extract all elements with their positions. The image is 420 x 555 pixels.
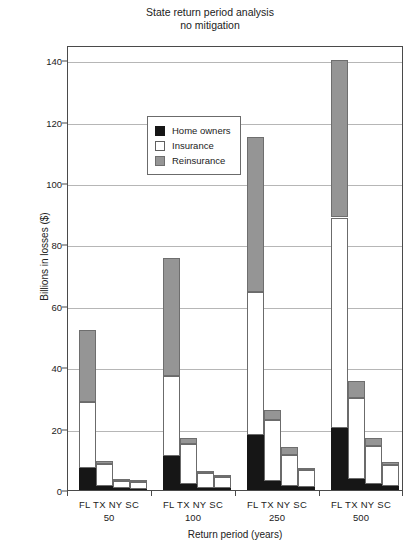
x-group-period: 250: [235, 511, 319, 524]
bar-segment: [113, 479, 130, 481]
bar-segment: [180, 444, 197, 484]
y-tick-label: 100: [24, 179, 62, 190]
y-tick-label: 80: [24, 240, 62, 251]
x-axis-label: Return period (years): [67, 529, 403, 540]
bar-segment: [163, 258, 180, 376]
bar-segment: [197, 471, 214, 473]
y-tick-label: 120: [24, 117, 62, 128]
bar-segment: [247, 292, 264, 436]
bar-group: [320, 47, 404, 490]
bar-segment: [214, 488, 231, 490]
stacked-bar: [130, 482, 147, 490]
legend-label: Insurance: [172, 140, 214, 151]
bar-segment: [79, 468, 96, 490]
bar-segment: [96, 461, 113, 464]
x-tick-mark: [319, 491, 320, 496]
chart-legend: Home ownersInsuranceReinsurance: [147, 116, 241, 175]
legend-swatch-ins: [155, 141, 165, 151]
bar-segment: [214, 475, 231, 477]
bar-segment: [348, 398, 365, 479]
x-tick-mark: [402, 491, 403, 496]
bar-group: [68, 47, 152, 490]
legend-label: Reinsurance: [172, 155, 225, 166]
bar-segment: [365, 446, 382, 485]
x-group-states: FL TX NY SC: [67, 498, 151, 511]
bar-segment: [247, 137, 264, 292]
legend-item: Home owners: [155, 123, 231, 138]
bar-group: [152, 47, 236, 490]
bar-segment: [180, 438, 197, 444]
x-tick-mark: [67, 491, 68, 496]
y-tick-label: 140: [24, 56, 62, 67]
x-group-label: FL TX NY SC50: [67, 498, 151, 524]
stacked-bar: [281, 447, 298, 490]
bar-segment: [298, 468, 315, 470]
y-axis-label: Billions in losses ($): [39, 137, 50, 377]
x-group-states: FL TX NY SC: [235, 498, 319, 511]
bar-segment: [264, 420, 281, 481]
x-group-period: 500: [319, 511, 403, 524]
y-tick-label: 60: [24, 301, 62, 312]
bar-segment: [264, 410, 281, 420]
legend-item: Reinsurance: [155, 153, 231, 168]
stacked-bar: [180, 438, 197, 490]
x-axis: Return period (years) FL TX NY SC50FL TX…: [67, 491, 403, 553]
bar-segment: [281, 486, 298, 490]
y-tick-label: 0: [24, 486, 62, 497]
x-group-period: 50: [67, 511, 151, 524]
stacked-bar: [247, 137, 264, 490]
stacked-bar: [79, 330, 96, 490]
chart-figure: State return period analysis no mitigati…: [0, 0, 420, 555]
x-group-states: FL TX NY SC: [151, 498, 235, 511]
bar-segment: [130, 480, 147, 482]
y-axis: Billions in losses ($) 02040608010012014…: [20, 46, 62, 491]
bar-segment: [163, 456, 180, 490]
stacked-bar: [214, 475, 231, 490]
x-tick-mark: [151, 491, 152, 496]
stacked-bar: [382, 462, 399, 490]
x-group-period: 100: [151, 511, 235, 524]
bar-segment: [163, 376, 180, 456]
stacked-bar: [96, 461, 113, 490]
bar-segment: [197, 473, 214, 487]
legend-item: Insurance: [155, 138, 231, 153]
stacked-bar: [113, 480, 130, 490]
bar-segment: [382, 462, 399, 465]
bar-segment: [113, 481, 130, 488]
stacked-bar: [331, 60, 348, 490]
bar-segment: [214, 477, 231, 489]
bar-segment: [79, 330, 96, 402]
stacked-bar: [197, 472, 214, 490]
chart-title-line2: no mitigation: [0, 19, 420, 32]
bar-segment: [130, 482, 147, 488]
bar-segment: [264, 481, 281, 490]
plot-area: Home ownersInsuranceReinsurance: [67, 46, 403, 491]
legend-swatch-home: [155, 126, 165, 136]
bar-segment: [382, 486, 399, 490]
bar-segment: [96, 464, 113, 486]
legend-label: Home owners: [172, 125, 231, 136]
bars-layer: [68, 47, 402, 490]
y-tick-label: 40: [24, 363, 62, 374]
bar-segment: [180, 484, 197, 490]
bar-segment: [365, 484, 382, 490]
bar-segment: [348, 381, 365, 398]
x-group-label: FL TX NY SC250: [235, 498, 319, 524]
legend-swatch-rein: [155, 156, 165, 166]
stacked-bar: [365, 438, 382, 490]
bar-segment: [331, 60, 348, 217]
bar-segment: [79, 402, 96, 467]
bar-segment: [365, 438, 382, 446]
x-group-states: FL TX NY SC: [319, 498, 403, 511]
stacked-bar: [264, 410, 281, 490]
bar-segment: [331, 428, 348, 490]
stacked-bar: [348, 381, 365, 490]
bar-group: [236, 47, 320, 490]
x-tick-mark: [235, 491, 236, 496]
bar-segment: [298, 487, 315, 490]
bar-segment: [96, 486, 113, 490]
bar-segment: [247, 435, 264, 490]
stacked-bar: [298, 469, 315, 490]
chart-title: State return period analysis no mitigati…: [0, 6, 420, 32]
bar-segment: [281, 455, 298, 486]
